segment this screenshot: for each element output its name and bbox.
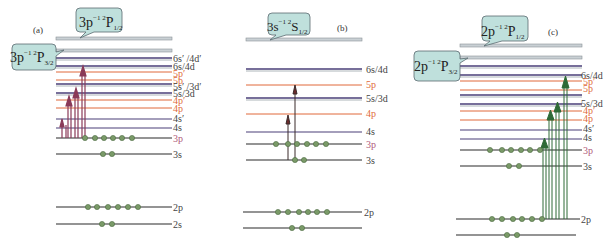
ion-limit-bubble-2p-P3/2: 2p−1 2P3/2 <box>414 51 468 81</box>
svg-text:4s: 4s <box>173 122 182 133</box>
excitation-arrows-b <box>286 85 297 160</box>
ion-limit-bubble-2p-P1/2: 2p−1 2P1/2 <box>481 16 528 46</box>
level-labels-b: 6s/4d 5p 5s/3d 4p 4s 3p 3s 2p <box>364 64 388 218</box>
svg-text:3s: 3s <box>583 161 592 172</box>
svg-text:3s: 3s <box>173 149 182 160</box>
ion-limit-bubble-3s-S1/2: 3s−1 2S1/2 <box>267 13 310 40</box>
ion-limit-p32-a <box>56 49 172 52</box>
panel-label-a: (a) <box>33 25 43 35</box>
electrons-a <box>82 135 140 226</box>
electrons-c <box>487 147 544 237</box>
level-labels-a: 6s′ /4d′ 6s/4d 5p′ 5p 5s′ /3d′ 5s/3d 4p′… <box>173 53 202 230</box>
svg-text:4p: 4p <box>366 108 376 119</box>
electrons-b <box>273 141 329 230</box>
svg-text:3s: 3s <box>366 155 375 166</box>
svg-text:3p: 3p <box>366 139 376 150</box>
level-labels-c: 6s/4d 5p′ 5p 5s/3d 4p′ 4p 4s′ 4s 3p 3s 2… <box>581 70 603 225</box>
ion-limit-p12-a <box>56 37 172 40</box>
svg-text:2s: 2s <box>173 219 182 230</box>
panel-a: (a) 6s′ /4d′ 6s/4d <box>10 8 202 230</box>
excitation-arrows-c <box>541 76 569 219</box>
ion-limit-p12-c <box>460 44 582 47</box>
svg-text:2p: 2p <box>581 214 591 225</box>
rydberg-levels-a <box>56 58 172 224</box>
svg-text:4s: 4s <box>366 126 375 137</box>
rydberg-levels-b <box>243 69 362 228</box>
ion-limit-s12-b <box>246 38 362 41</box>
panel-b: (b) 6s/4d 5p 5s/3d 4p 4s 3p 3s 2p <box>243 13 388 231</box>
excitation-arrows-a <box>60 66 86 138</box>
svg-text:6s/4d: 6s/4d <box>366 64 388 75</box>
ion-limit-bubble-3p-P3/2: 3p−1 2P3/2 <box>10 44 64 70</box>
svg-text:2p: 2p <box>173 202 183 213</box>
svg-text:2p: 2p <box>364 207 374 218</box>
ion-limit-bubble-3p-P1/2: 3p−1 2P1/2 <box>76 8 123 38</box>
energy-level-diagram: (a) 6s′ /4d′ 6s/4d <box>0 0 610 245</box>
svg-text:4s: 4s <box>583 132 592 143</box>
ion-limit-p32-c <box>460 56 582 59</box>
panel-label-b: (b) <box>337 23 348 33</box>
svg-text:5p: 5p <box>366 79 376 90</box>
panel-c: (c) 6s/4d 5p′ 5p 5s/3d <box>414 16 603 238</box>
svg-text:5p: 5p <box>583 83 593 94</box>
svg-text:3p: 3p <box>173 133 183 144</box>
svg-text:3p: 3p <box>583 145 593 156</box>
svg-text:5s/3d: 5s/3d <box>366 93 388 104</box>
panel-label-c: (c) <box>548 27 558 37</box>
